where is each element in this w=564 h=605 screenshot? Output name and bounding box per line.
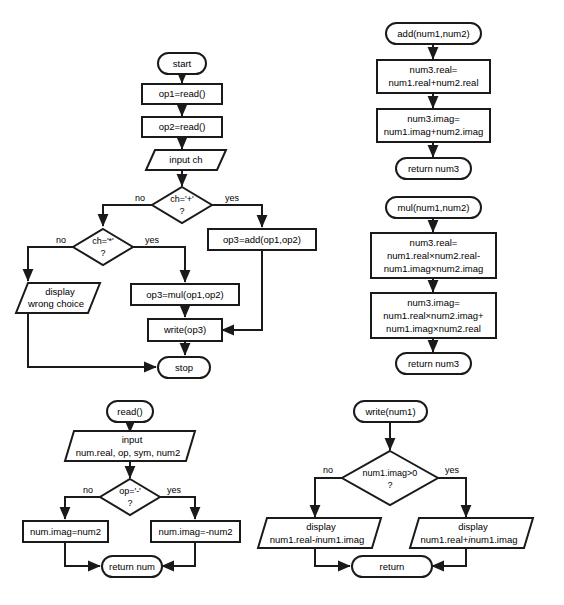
- mul-function-flowchart: mul(num1,num2) num3.real= num1.real×num2…: [371, 197, 496, 374]
- node-write-decision-qmark: ?: [387, 480, 392, 490]
- node-add-real[interactable]: num3.real= num1.real+num2.real: [377, 60, 490, 93]
- node-mul-imag-line3: num1.imag×num2.real: [386, 323, 481, 334]
- node-op1-read[interactable]: op1=read(): [142, 84, 222, 104]
- node-add-imag-line2: num1.imag+num2.imag: [384, 126, 484, 137]
- node-write-decision[interactable]: num1.imag>0 ?: [342, 451, 438, 505]
- node-add-real-line2: num1.real+num2.real: [388, 77, 478, 88]
- node-decision-mul[interactable]: ch='*' ?: [73, 229, 133, 265]
- node-read-input-line2: num.real, op, sym, num2: [76, 447, 181, 458]
- node-add-imag[interactable]: num3.imag= num1.imag+num2.imag: [377, 109, 490, 142]
- edge-label-write-yes: yes: [445, 465, 460, 475]
- node-stop-label: stop: [175, 362, 193, 373]
- node-write-display-minus[interactable]: display num1.real-inum1.imag: [258, 518, 381, 548]
- node-read-input[interactable]: input num.real, op, sym, num2: [65, 431, 195, 461]
- node-display-wrong-choice-label2: wrong choice: [27, 298, 84, 309]
- node-read-return[interactable]: return num: [102, 556, 162, 577]
- main-program-flowchart: start op1=read() op2=read() input ch ch=…: [16, 53, 316, 378]
- edge-label-read-yes: yes: [167, 485, 182, 495]
- node-add-entry-label: add(num1,num2): [397, 28, 469, 39]
- node-add-return[interactable]: return num3: [396, 158, 471, 179]
- node-write-display-minus-line1: display: [306, 521, 336, 532]
- node-add-imag-line1: num3.imag=: [407, 113, 460, 124]
- node-op3-add[interactable]: op3=add(op1,op2): [208, 229, 316, 250]
- node-mul-real-line2: num1.real×num2.real-: [387, 250, 480, 261]
- node-write-display-plus-line2: num1.real+inum1.imag: [421, 534, 518, 545]
- write-function-flowchart: write(num1) num1.imag>0 ? no yes display…: [258, 401, 533, 577]
- node-write-display-plus[interactable]: display num1.real+inum1.imag: [410, 518, 533, 548]
- node-read-imag-pos[interactable]: num.imag=num2: [23, 521, 108, 542]
- node-mul-return[interactable]: return num3: [396, 353, 471, 374]
- edge-label-no-1: no: [135, 193, 145, 203]
- edge-label-write-no: no: [323, 465, 333, 475]
- node-read-decision-label: op='-': [119, 486, 141, 496]
- node-write-return-label: return: [380, 561, 405, 572]
- node-write-op3[interactable]: write(op3): [148, 319, 222, 341]
- node-add-real-line1: num3.real=: [410, 64, 458, 75]
- node-op2-read[interactable]: op2=read(): [142, 117, 222, 137]
- node-write-decision-label: num1.imag>0: [363, 468, 418, 478]
- node-read-entry[interactable]: read(): [107, 401, 153, 422]
- add-function-flowchart: add(num1,num2) num3.real= num1.real+num2…: [377, 23, 490, 179]
- node-read-imag-neg[interactable]: num.imag=-num2: [151, 521, 240, 542]
- node-display-wrong-choice-label1: display: [45, 286, 75, 297]
- read-function-flowchart: read() input num.real, op, sym, num2 op=…: [23, 401, 240, 577]
- write-minus-part-b: num1.imag: [317, 534, 364, 545]
- node-op1-read-label: op1=read(): [159, 88, 206, 99]
- node-decision-plus[interactable]: ch='+' ?: [152, 187, 212, 223]
- flowchart-svg: start op1=read() op2=read() input ch ch=…: [0, 0, 564, 605]
- node-write-display-plus-line1: display: [458, 521, 488, 532]
- node-decision-plus-qmark: ?: [179, 206, 184, 216]
- write-plus-part-b: num1.imag: [470, 534, 517, 545]
- node-mul-real-line1: num3.real=: [410, 237, 458, 248]
- node-stop[interactable]: stop: [158, 357, 210, 378]
- node-mul-real-line3: num1.imag×num2.imag: [384, 263, 484, 274]
- node-write-return[interactable]: return: [352, 556, 432, 577]
- node-read-entry-label: read(): [117, 406, 142, 417]
- write-plus-part-a: num1.real+: [421, 534, 469, 545]
- node-mul-return-label: return num3: [408, 358, 459, 369]
- node-read-input-line1: input: [122, 434, 143, 445]
- flowchart-canvas: start op1=read() op2=read() input ch ch=…: [0, 0, 564, 605]
- node-op3-mul-label: op3=mul(op1,op2): [146, 289, 223, 300]
- node-input-ch[interactable]: input ch: [146, 150, 226, 170]
- node-decision-mul-label: ch='*': [92, 236, 114, 246]
- node-write-op3-label: write(op3): [163, 324, 206, 335]
- node-read-return-label: return num: [109, 561, 155, 572]
- edge-label-read-no: no: [83, 485, 93, 495]
- node-read-imag-pos-label: num.imag=num2: [30, 526, 101, 537]
- node-decision-mul-qmark: ?: [100, 248, 105, 258]
- node-mul-entry[interactable]: mul(num1,num2): [386, 197, 481, 218]
- edge-label-yes-2: yes: [145, 235, 160, 245]
- node-write-entry-label: write(num1): [364, 406, 415, 417]
- node-op3-add-label: op3=add(op1,op2): [223, 234, 301, 245]
- node-read-imag-neg-label: num.imag=-num2: [158, 526, 232, 537]
- node-mul-imag-line2: num1.real×num2.imag+: [383, 310, 484, 321]
- node-add-entry[interactable]: add(num1,num2): [386, 23, 481, 44]
- edge-label-no-2: no: [56, 235, 66, 245]
- node-mul-real[interactable]: num3.real= num1.real×num2.real- num1.ima…: [371, 233, 496, 278]
- node-display-wrong-choice[interactable]: display wrong choice: [16, 283, 100, 313]
- node-op2-read-label: op2=read(): [159, 121, 206, 132]
- node-add-return-label: return num3: [408, 163, 459, 174]
- node-start[interactable]: start: [158, 53, 206, 74]
- node-op3-mul[interactable]: op3=mul(op1,op2): [131, 284, 239, 305]
- node-read-decision[interactable]: op='-' ?: [100, 479, 160, 515]
- node-decision-plus-label: ch='+': [170, 194, 194, 204]
- node-read-decision-qmark: ?: [127, 498, 132, 508]
- node-mul-imag[interactable]: num3.imag= num1.real×num2.imag+ num1.ima…: [371, 293, 496, 338]
- edge-label-yes-1: yes: [225, 193, 240, 203]
- node-start-label: start: [173, 58, 192, 69]
- node-input-ch-label: input ch: [169, 154, 202, 165]
- node-write-entry[interactable]: write(num1): [354, 401, 427, 422]
- node-write-display-minus-line2: num1.real-inum1.imag: [270, 534, 365, 545]
- node-mul-imag-line1: num3.imag=: [407, 297, 460, 308]
- node-mul-entry-label: mul(num1,num2): [398, 202, 470, 213]
- write-minus-part-a: num1.real-: [270, 534, 315, 545]
